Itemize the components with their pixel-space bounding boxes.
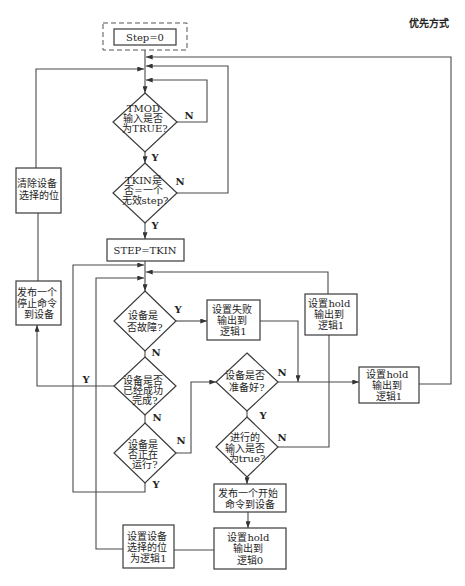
label-fault-no: N [151,347,160,358]
edge-mid-hold-to-main [146,272,328,294]
step-assign-label: STEP=TKIN [114,245,177,256]
node-tmod-check: TMOD 输入是否 为TRUE? [113,93,177,152]
node-set-hold-0: 设置hold 输出到 逻辑0 [214,528,286,569]
node-completed-check: 设备是否 已经成功 完成? [114,357,176,415]
node-stop-command: 发布一个 停止命令 到设备 [16,281,61,325]
node-input-check: 进行的 输入是否 为true? [216,417,278,477]
label-ready-yes: Y [258,410,267,421]
node-start: Step=0 [103,23,187,50]
label-tmod-yes: Y [150,152,159,163]
input-label: 进行的 输入是否 为true? [225,431,268,464]
node-step-assign: STEP=TKIN [107,239,184,261]
edge-input-no [278,335,329,447]
label-running-yes: Y [151,479,160,490]
label-completed-no: N [152,412,161,423]
fault-diamond [114,291,176,351]
node-running-check: 设备是 否正在 运行? [114,423,176,483]
node-fault-check: 设备是 否故障? [114,291,176,351]
label-tkin-no: N [175,176,184,187]
node-set-fail: 设置失败 输出到 逻辑1 [207,300,260,340]
node-ready-check: 设备是否 准备好? [216,353,278,411]
start-command-label: 发布一个开始 命令到设备 [218,487,281,510]
label-tmod-no: N [184,110,193,121]
start-label: Step=0 [126,32,164,43]
node-set-select: 设置设备 选择的位 为逻辑1 [123,525,174,568]
label-fault-yes: Y [173,304,182,315]
node-set-hold-1-mid: 设置hold 输出到 逻辑1 [305,294,357,335]
label-ready-no: N [277,367,286,378]
edge-completed-yes [37,325,114,386]
set-select-label: 设置设备 选择的位 为逻辑1 [127,530,170,564]
label-completed-yes: Y [81,374,90,385]
label-input-no: N [277,432,286,443]
node-set-hold-1-right: 设置hold 输出到 逻辑1 [359,367,419,403]
tkin-label: TKIN是 否=一个 无效step? [122,175,169,206]
node-tkin-check: TKIN是 否=一个 无效step? [113,163,177,223]
node-clear-select: 清除设备 选择的位 [16,168,61,213]
running-label: 设备是 否正在 运行? [128,438,161,470]
label-running-no: N [176,435,185,446]
diagram-title: 优先方式 [409,17,449,29]
node-start-command: 发布一个开始 命令到设备 [214,484,286,512]
label-tkin-yes: Y [150,220,159,231]
tmod-label: TMOD 输入是否 为TRUE? [122,103,167,134]
priority-mode-flowchart: 优先方式 Step=0 TMOD [0,0,465,586]
